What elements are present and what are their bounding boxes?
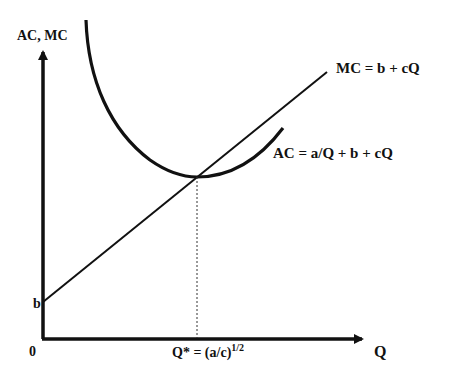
intercept-label: b [33,296,41,312]
qstar-label: Q* = (a/c)1/2 [172,342,244,361]
ac-curve [86,20,283,177]
ac-label: AC = a/Q + b + cQ [273,145,393,162]
mc-label: MC = b + cQ [336,60,420,77]
mc-line [43,72,327,302]
cost-curves-diagram [0,0,449,380]
x-axis-label: Q [374,343,386,361]
qstar-label-base: Q* = (a/c) [172,345,231,360]
origin-label: 0 [29,344,36,360]
qstar-label-exponent: 1/2 [231,342,244,353]
y-axis-label: AC, MC [17,28,68,44]
